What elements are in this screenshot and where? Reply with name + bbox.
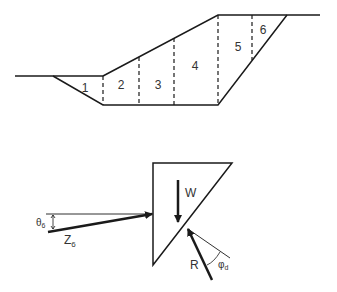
interslice-force-label: Z6: [64, 233, 76, 249]
slice-label-6: 6: [260, 23, 267, 37]
interslice-force-arrow-icon: [48, 214, 152, 232]
slice-label-3: 3: [155, 78, 162, 92]
slice-label-5: 5: [235, 40, 242, 54]
reaction-label: R: [190, 258, 199, 272]
phi-angle-label: φd: [218, 259, 228, 271]
wedge-free-body-diagram: W Z6 θ6 R φd: [36, 163, 232, 280]
weight-label: W: [185, 186, 197, 200]
slope-section: 1 2 3 4 5 6: [15, 15, 320, 105]
wedge-triangle: [153, 163, 232, 265]
reaction-arrow-icon: [188, 229, 212, 280]
slice-label-4: 4: [192, 59, 199, 73]
figure-canvas: 1 2 3 4 5 6 W Z6 θ6 R φd: [0, 0, 337, 292]
slice-label-2: 2: [118, 78, 125, 92]
slice-label-1: 1: [82, 81, 89, 95]
upper-slope-line: [103, 15, 320, 76]
theta-angle-label: θ6: [36, 217, 46, 229]
slice-boundaries: [103, 15, 252, 105]
